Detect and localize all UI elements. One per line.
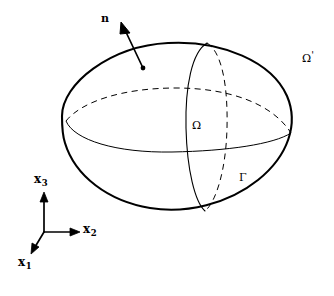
axis-x1-label: x1 xyxy=(18,256,32,270)
normal-vector-arrowhead xyxy=(120,22,130,34)
equator-front-arc-solid xyxy=(66,121,291,152)
axis-x2-label: x2 xyxy=(83,223,97,237)
axis-x2-arrowhead xyxy=(70,228,80,236)
axis-x3-arrowhead xyxy=(40,192,48,202)
normal-vector-shaft xyxy=(125,30,143,68)
axis-x1-subscript: 1 xyxy=(25,261,31,271)
exterior-domain-symbol: Ω xyxy=(302,52,311,65)
meridian-back-arc-dashed xyxy=(205,43,227,211)
axis-x3-subscript: 3 xyxy=(41,178,47,188)
equator-group xyxy=(66,88,291,152)
ellipsoid-outline xyxy=(62,43,292,210)
equator-back-arc-dashed xyxy=(66,88,291,133)
ellipsoid-outline-group xyxy=(62,43,292,210)
ellipsoid-diagram-svg xyxy=(0,0,334,296)
axis-x1-shaft xyxy=(35,232,44,247)
exterior-domain-label: Ω' xyxy=(302,50,314,64)
normal-vector-label: n xyxy=(101,13,109,24)
boundary-surface-label: Γ xyxy=(239,172,247,183)
axis-x1-arrowhead xyxy=(31,243,39,254)
axis-x3-label: x3 xyxy=(34,173,48,187)
axis-x2-subscript: 2 xyxy=(90,228,96,238)
coordinate-axes-group xyxy=(31,192,80,254)
figure-canvas: n Ω' Ω Γ x3 x2 x1 xyxy=(0,0,334,296)
exterior-domain-prime-mark: ' xyxy=(311,49,314,60)
interior-domain-label: Ω xyxy=(192,120,201,131)
